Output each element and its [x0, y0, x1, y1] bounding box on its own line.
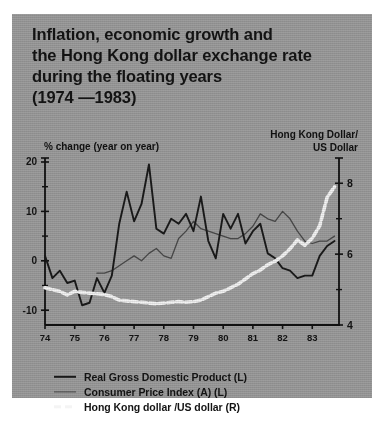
legend-label-cpi: Consumer Price Index (A) (L) — [84, 386, 227, 398]
x-axis-tick-label: 79 — [188, 332, 199, 343]
x-axis-tick-label: 83 — [307, 332, 318, 343]
left-axis-tick-label: 20 — [26, 156, 38, 167]
right-axis-tick-label: 8 — [347, 177, 353, 189]
right-axis-tick-label: 4 — [347, 319, 353, 331]
legend-label-gdp: Real Gross Domestic Product (L) — [84, 371, 247, 383]
plot-area: -100102046874757677787980818283 — [12, 14, 372, 398]
x-axis-tick-label: 81 — [248, 332, 259, 343]
legend-swatch-fx-line — [54, 402, 76, 412]
legend-label-fx: Hong Kong dollar /US dollar (R) — [84, 401, 240, 413]
x-axis-tick-label: 77 — [129, 332, 140, 343]
legend-item-cpi: Consumer Price Index (A) (L) — [54, 384, 354, 399]
left-axis-tick-label: 10 — [26, 206, 38, 217]
legend-item-gdp: Real Gross Domestic Product (L) — [54, 369, 354, 384]
right-axis-tick-label: 6 — [347, 248, 353, 260]
x-axis-tick-label: 80 — [218, 332, 229, 343]
x-axis-tick-label: 82 — [277, 332, 288, 343]
x-axis-tick-label: 74 — [40, 332, 51, 343]
chart-legend: Real Gross Domestic Product (L) Consumer… — [54, 369, 354, 414]
legend-item-fx: Hong Kong dollar /US dollar (R) — [54, 399, 354, 414]
chart-figure: Inflation, economic growth and the Hong … — [0, 0, 387, 426]
legend-swatch-gdp-line — [54, 372, 76, 382]
left-axis-tick-label: -10 — [23, 305, 38, 316]
fx-line — [45, 187, 335, 304]
left-axis-tick-label: 0 — [31, 255, 37, 266]
x-axis-tick-label: 75 — [69, 332, 80, 343]
legend-swatch-cpi-line — [54, 387, 76, 397]
x-axis-tick-label: 76 — [99, 332, 110, 343]
x-axis-tick-label: 78 — [158, 332, 169, 343]
chart-panel: Inflation, economic growth and the Hong … — [12, 14, 372, 398]
gdp-line — [45, 164, 335, 305]
